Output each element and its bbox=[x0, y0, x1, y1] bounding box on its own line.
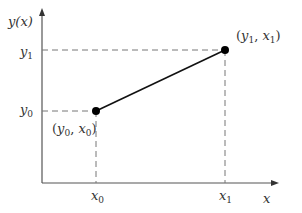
y-axis-arrow-icon bbox=[39, 8, 45, 16]
x-axis-arrow-icon bbox=[271, 180, 279, 186]
y1-tick-label: y1 bbox=[19, 44, 33, 61]
point-0-label: (y0, x0) bbox=[52, 121, 97, 138]
interpolation-diagram: y(x) x y1 y0 x0 x1 (y0, x0) (y1, x1) bbox=[0, 0, 302, 213]
x-axis-label: x bbox=[263, 191, 271, 206]
x1-tick-label: x1 bbox=[219, 188, 232, 205]
point-0-marker-icon bbox=[92, 107, 100, 115]
point-1-marker-icon bbox=[221, 46, 229, 54]
y-axis-label: y(x) bbox=[7, 14, 33, 29]
y0-tick-label: y0 bbox=[19, 102, 33, 119]
point-1-label: (y1, x1) bbox=[236, 28, 281, 45]
x0-tick-label: x0 bbox=[91, 188, 104, 205]
interpolation-line bbox=[96, 50, 225, 111]
